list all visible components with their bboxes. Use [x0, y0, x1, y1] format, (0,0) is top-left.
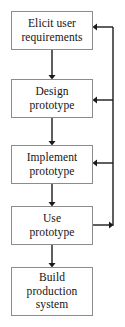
process-box-label-line1: Design: [35, 85, 68, 99]
prototyping-process-flowchart: Elicit user requirements Design prototyp…: [0, 0, 125, 327]
process-box-implement-prototype[interactable]: Implement prototype: [11, 145, 93, 184]
process-box-use-prototype[interactable]: Use prototype: [11, 206, 93, 245]
process-box-label-line2: prototype: [30, 226, 75, 240]
process-box-label-line2: prototype: [30, 99, 75, 113]
process-box-label-line1: Use: [43, 212, 61, 226]
process-box-label-line2: prototype: [30, 165, 75, 179]
process-box-label-line2: requirements: [21, 31, 82, 45]
process-box-elicit-user-requirements[interactable]: Elicit user requirements: [11, 11, 93, 50]
process-box-label-line2: production: [27, 285, 78, 299]
process-box-label-line1: Implement: [27, 151, 78, 165]
process-box-label-line3: system: [36, 298, 69, 312]
process-box-label-line1: Build: [39, 271, 65, 285]
process-box-label-line1: Elicit user: [28, 17, 76, 31]
process-box-build-production-system[interactable]: Build production system: [11, 267, 93, 316]
process-box-design-prototype[interactable]: Design prototype: [11, 79, 93, 118]
